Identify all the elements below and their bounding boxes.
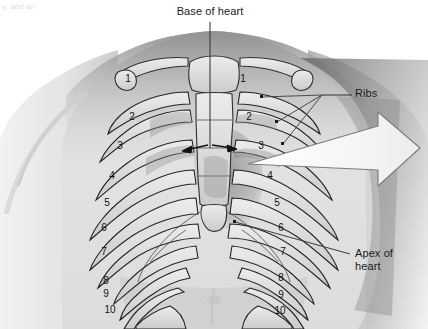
corner-note: y, and an [2, 0, 35, 13]
anatomy-figure: 12345678910 12345678910 y, and an Base o… [0, 0, 428, 329]
apex-anchor [233, 220, 236, 223]
label-ribs: Ribs [355, 87, 377, 100]
manubrium [189, 56, 240, 93]
left-acromion [115, 70, 136, 90]
anatomy-artwork [0, 0, 428, 329]
right-acromion [292, 70, 313, 90]
mediastinum-shade [204, 156, 228, 198]
label-base-of-heart: Base of heart [155, 5, 265, 18]
ribs-anchor-3 [281, 142, 284, 145]
ribs-anchor-2 [275, 120, 278, 123]
ribs-anchor-1 [260, 95, 263, 98]
label-apex-of-heart: Apex of heart [355, 247, 393, 273]
